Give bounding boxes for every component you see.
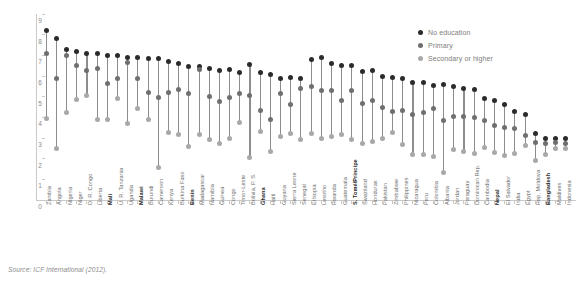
data-point <box>176 61 181 66</box>
x-tick-group: D. R. Congo <box>82 201 91 259</box>
data-point <box>54 76 59 81</box>
data-point <box>319 136 324 141</box>
range-stem <box>321 57 322 138</box>
range-stem <box>535 134 536 161</box>
data-point <box>298 137 303 142</box>
range-stem <box>97 53 98 119</box>
data-point <box>105 81 110 86</box>
data-point <box>146 56 151 61</box>
x-tick-group: S. Tomé/Principe <box>347 201 356 259</box>
x-tick-group: Indonesia <box>561 201 570 259</box>
data-point <box>84 68 89 73</box>
legend-swatch-icon <box>418 30 423 35</box>
data-point <box>533 140 538 145</box>
data-point <box>258 129 263 134</box>
range-stem <box>178 64 179 135</box>
data-point <box>95 51 100 56</box>
data-point <box>268 149 273 154</box>
data-point <box>349 63 354 68</box>
data-point <box>278 76 283 81</box>
x-tick-group: Honduras <box>368 201 377 259</box>
data-point <box>461 86 466 91</box>
range-stem <box>188 67 189 147</box>
country-group <box>307 14 316 200</box>
data-point <box>431 154 436 159</box>
country-group <box>82 14 91 200</box>
data-point <box>533 131 538 136</box>
data-point <box>421 152 426 157</box>
x-tick-group: Zimbabwe <box>388 201 397 259</box>
data-point <box>217 99 222 104</box>
country-group <box>52 14 61 200</box>
data-point <box>339 63 344 68</box>
x-tick-group: Peru <box>419 201 428 259</box>
data-point <box>472 87 477 92</box>
x-tick-group: Colombia <box>429 201 438 259</box>
data-point <box>135 55 140 60</box>
top-margin-strip <box>0 0 579 6</box>
data-point <box>410 152 415 157</box>
data-point <box>54 36 59 41</box>
country-group <box>72 14 81 200</box>
country-group <box>368 14 377 200</box>
data-point <box>44 28 49 33</box>
data-point <box>298 76 303 81</box>
data-point <box>186 144 191 149</box>
range-stem <box>199 67 200 135</box>
data-point <box>115 76 120 81</box>
x-tick-group: Timor-Leste <box>235 201 244 259</box>
x-tick-group: Ghana <box>256 201 265 259</box>
data-point <box>360 101 365 106</box>
data-point <box>349 88 354 93</box>
data-point <box>492 123 497 128</box>
data-point <box>135 76 140 81</box>
data-point <box>390 109 395 114</box>
range-stem <box>514 111 515 153</box>
data-point <box>492 150 497 155</box>
range-stem <box>392 77 393 133</box>
x-tick-group: Lesotho <box>317 201 326 259</box>
data-point <box>400 108 405 113</box>
data-point <box>339 98 344 103</box>
data-point <box>441 170 446 175</box>
data-point <box>288 75 293 80</box>
range-stem <box>525 114 526 145</box>
country-group <box>256 14 265 200</box>
data-point <box>115 53 120 58</box>
country-group <box>408 14 417 200</box>
x-tick-group: Namibia <box>205 201 214 259</box>
range-stem <box>423 82 424 154</box>
data-point <box>166 130 171 135</box>
data-point <box>319 55 324 60</box>
data-point <box>146 90 151 95</box>
legend-item[interactable]: No education <box>418 26 568 39</box>
legend: No educationPrimarySecondary or higher <box>418 26 568 65</box>
data-point <box>482 145 487 150</box>
data-point <box>482 96 487 101</box>
range-stem <box>362 72 363 143</box>
data-point <box>563 136 568 141</box>
x-tick-group: Guyana <box>276 201 285 259</box>
data-point <box>349 137 354 142</box>
data-point <box>247 155 252 160</box>
x-tick-group: Malawi <box>133 201 142 259</box>
range-stem <box>209 69 210 139</box>
data-point <box>278 91 283 96</box>
legend-item[interactable]: Secondary or higher <box>418 52 568 65</box>
data-point <box>370 139 375 144</box>
legend-item[interactable]: Primary <box>418 39 568 52</box>
data-point <box>421 110 426 115</box>
x-tick-group: Pakistan <box>378 201 387 259</box>
range-stem <box>463 88 464 151</box>
x-tick-group: Kenya <box>164 201 173 259</box>
x-tick-group: Nicaragua <box>408 201 417 259</box>
x-tick-label: Burkina Faso <box>179 171 185 205</box>
data-point <box>135 106 140 111</box>
data-point <box>217 68 222 73</box>
data-point <box>207 137 212 142</box>
range-stem <box>107 55 108 119</box>
data-point <box>329 61 334 66</box>
country-group <box>337 14 346 200</box>
data-point <box>380 74 385 79</box>
data-point <box>64 47 69 52</box>
